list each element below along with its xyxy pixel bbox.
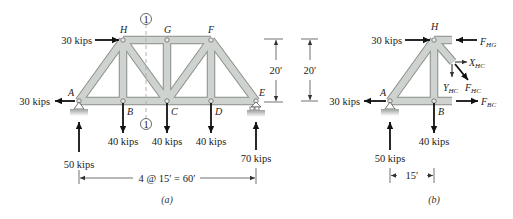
height-dimension-label: 20′ xyxy=(270,65,283,76)
svg-text:1: 1 xyxy=(143,14,148,25)
section-marker-bottom: 1 xyxy=(141,119,152,130)
node-label-a: A xyxy=(67,87,75,98)
section-marker-top: 1 xyxy=(141,14,152,25)
load-label-a-horizontal-b: 30 kips xyxy=(329,96,360,107)
node-label-b: B xyxy=(127,106,133,117)
force-label-fhg: FHG xyxy=(479,36,496,49)
height-dimension-b-label: 20′ xyxy=(304,65,317,76)
node-label-f: F xyxy=(207,24,215,35)
node-label-d: D xyxy=(214,106,223,117)
panel-a: 1 1 H G F A B C D E xyxy=(19,14,283,207)
truss-figure: 1 1 H G F A B C D E xyxy=(0,0,513,219)
force-label-fbc: FBC xyxy=(480,96,496,109)
node-label-h: H xyxy=(119,24,128,35)
width-dimension-b-label: 15′ xyxy=(406,170,419,181)
truss-members xyxy=(79,40,256,101)
load-label-b-b: 40 kips xyxy=(419,136,450,147)
node-label-g: G xyxy=(164,24,171,35)
node-label-h-b: H xyxy=(430,21,439,32)
force-label-xhc: XHC xyxy=(468,57,485,70)
span-dimension-label: 4 @ 15′ = 60′ xyxy=(139,173,196,184)
load-label-a-horizontal: 30 kips xyxy=(19,96,50,107)
node-label-b-b: B xyxy=(438,106,444,117)
load-label-d: 40 kips xyxy=(196,136,227,147)
force-label-fhc: FHC xyxy=(464,82,481,95)
reaction-label-a: 50 kips xyxy=(64,159,95,170)
svg-text:1: 1 xyxy=(143,119,148,130)
reaction-label-e: 70 kips xyxy=(241,153,272,164)
panel-b: 20′ H A B xyxy=(301,21,496,206)
force-label-yhc: YHC xyxy=(443,82,459,95)
load-label-h: 30 kips xyxy=(61,35,92,46)
load-label-c: 40 kips xyxy=(152,136,183,147)
node-label-a-b: A xyxy=(379,87,387,98)
load-label-b: 40 kips xyxy=(108,136,139,147)
node-label-e: E xyxy=(258,87,265,98)
reaction-label-a-b: 50 kips xyxy=(375,153,406,164)
caption-b: (b) xyxy=(428,194,440,206)
load-label-h-b: 30 kips xyxy=(371,35,402,46)
caption-a: (a) xyxy=(161,194,173,206)
node-label-c: C xyxy=(171,106,178,117)
